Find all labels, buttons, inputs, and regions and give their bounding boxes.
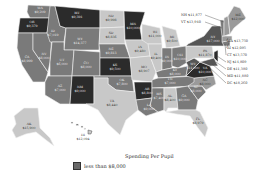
state-label-mt: MT$9,391 <box>71 12 82 19</box>
state-label-nc: NC$8,000 <box>199 79 210 86</box>
state-label-or: OR$9,379 <box>26 21 37 28</box>
state-label-la: LA$9,000 <box>143 104 154 111</box>
legend-swatch <box>73 162 81 170</box>
state-label-nv: NV$8,000 <box>38 53 49 60</box>
callout-vt: VT $13,940 <box>181 20 201 24</box>
state-label-hi: HI$12,094 <box>76 134 89 141</box>
state-label-ga: GA$9,000 <box>178 95 189 102</box>
state-label-ky: KY$8,000 <box>169 69 180 76</box>
state-label-ny: NY$17,000 <box>206 36 219 43</box>
state-label-az: AZ$7,000 <box>54 85 65 92</box>
state-label-in: IN$9,000 <box>161 56 172 63</box>
state-label-mn: MN$10,000 <box>126 23 139 30</box>
state-label-ks: KS$9,500 <box>109 64 120 71</box>
callout-ri: RI $12,095 <box>227 46 246 50</box>
callout-ma: MA $13,750 <box>227 39 248 43</box>
state-label-mi: MI$9,600 <box>166 36 177 43</box>
legend: less than $8,000 <box>73 162 126 170</box>
callout-nj: NJ $14,809 <box>227 60 246 64</box>
callout-nh: NH $11,877 <box>181 13 202 17</box>
state-label-wa: WA$9,209 <box>34 7 45 14</box>
state-label-wv: WV$11,000 <box>186 63 199 70</box>
state-label-wi: WI$11,000 <box>148 31 161 38</box>
map-title: Spending Per Pupil <box>125 153 174 159</box>
callout-de: DE $11,380 <box>227 67 247 71</box>
state-label-co: CO$8,000 <box>80 62 91 69</box>
callout-md: MD $11,880 <box>227 74 248 78</box>
state-label-ok: OK$7,800 <box>116 79 127 86</box>
legend-label: less than $8,000 <box>84 163 126 169</box>
state-hi[interactable] <box>71 122 92 134</box>
state-label-mo: MO$8,907 <box>138 66 149 73</box>
state-label-pa: PA$11,870 <box>198 50 211 57</box>
state-label-oh: OH$10,000 <box>173 54 186 61</box>
state-label-ca: CA$8,999 <box>21 56 32 63</box>
state-label-wy: WY$14,377 <box>73 38 86 45</box>
state-label-il: IL$9,400 <box>150 53 161 60</box>
state-label-nd: ND$9,998 <box>105 15 116 22</box>
callout-dc: DC $18,260 <box>227 81 247 85</box>
callout-ct: CT $13,570 <box>227 53 247 57</box>
state-label-sd: SD$8,836 <box>105 32 116 39</box>
state-label-al: AL$8,400 <box>164 95 175 102</box>
state-label-tx: TX$8,440 <box>106 100 117 107</box>
state-label-sc: SC$8,000 <box>190 86 201 93</box>
state-label-id: ID$7,019 <box>47 30 58 37</box>
state-label-ne: NE$9,813 <box>105 48 116 55</box>
state-label-fl: FL$8,979 <box>192 118 203 125</box>
state-label-ak: AK$15,900 <box>22 123 35 130</box>
state-label-nm: NM$9,000 <box>74 86 85 93</box>
state-label-me: ME$12,000 <box>231 14 244 21</box>
state-label-ut: UT$6,000 <box>56 59 67 66</box>
state-label-tn: TN$7,000 <box>164 78 175 85</box>
state-label-ms: MS$7,400 <box>153 93 164 100</box>
state-label-ar: AR$8,800 <box>141 88 152 95</box>
state-label-va: VA$10,000 <box>198 67 211 74</box>
state-label-ia: IA$9,480 <box>134 46 145 53</box>
